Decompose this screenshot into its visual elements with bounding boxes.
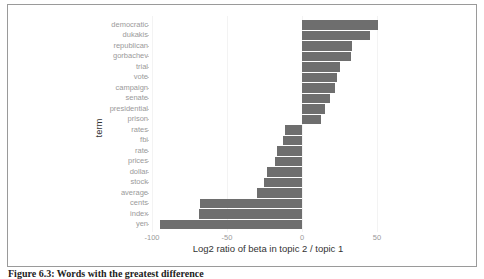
y-tick-label: dukakis: [123, 30, 148, 40]
y-tick-label: vote: [134, 72, 148, 82]
bar-cents: [200, 199, 302, 209]
y-tick-mark: [147, 151, 149, 152]
y-tick-mark: [147, 25, 149, 26]
figure-caption: Figure 6.3: Words with the greatest diff…: [8, 268, 204, 279]
bar-democratic: [302, 20, 378, 30]
bar-prison: [302, 115, 321, 125]
y-tick-mark: [147, 224, 149, 225]
bar-dollar: [267, 167, 302, 177]
x-tick-label: -100: [144, 233, 159, 242]
y-tick-label: average: [121, 188, 148, 198]
bar-rate: [277, 146, 303, 156]
y-tick-mark: [147, 67, 149, 68]
bar-yen: [160, 220, 303, 230]
y-tick-mark: [147, 214, 149, 215]
bar-average: [257, 188, 302, 198]
bar-index: [199, 209, 303, 219]
y-tick-label: cents: [130, 198, 148, 208]
bar-rates: [285, 125, 302, 135]
y-tick-label: index: [130, 209, 148, 219]
y-tick-mark: [147, 172, 149, 173]
y-tick-label: prison: [128, 114, 148, 124]
y-tick-mark: [147, 35, 149, 36]
x-tick-label: 50: [373, 233, 381, 242]
y-tick-mark: [147, 46, 149, 47]
y-tick-mark: [147, 88, 149, 89]
bar-prices: [275, 157, 302, 167]
y-tick-mark: [147, 182, 149, 183]
y-tick-label: prices: [128, 156, 148, 166]
y-tick-label: gorbachev: [113, 51, 148, 61]
gridline: [377, 16, 378, 232]
y-tick-label: presidential: [110, 104, 148, 114]
y-tick-mark: [147, 203, 149, 204]
y-tick-mark: [147, 130, 149, 131]
bar-presidential: [302, 104, 325, 114]
gridline: [152, 16, 153, 232]
y-tick-label: rates: [131, 125, 148, 135]
bar-republican: [302, 41, 352, 51]
y-tick-mark: [147, 119, 149, 120]
y-tick-mark: [147, 161, 149, 162]
y-tick-mark: [147, 109, 149, 110]
y-tick-label: stock: [130, 177, 148, 187]
bar-senate: [302, 94, 330, 104]
y-tick-mark: [147, 193, 149, 194]
x-tick-label: -50: [222, 233, 233, 242]
y-tick-mark: [147, 77, 149, 78]
y-tick-label: democratic: [111, 20, 148, 30]
y-tick-label: campaign: [115, 83, 148, 93]
bar-vote: [302, 73, 337, 83]
bar-campaign: [302, 83, 335, 93]
y-axis-title: term: [93, 119, 104, 138]
y-tick-mark: [147, 56, 149, 57]
bar-fbi: [283, 136, 303, 146]
x-tick-label: 0: [300, 233, 304, 242]
y-tick-label: senate: [125, 93, 148, 103]
bar-dukakis: [302, 31, 370, 41]
x-axis-title: Log2 ratio of beta in topic 2 / topic 1: [193, 243, 344, 254]
bar-gorbachev: [302, 52, 351, 62]
y-tick-mark: [147, 98, 149, 99]
y-tick-label: republican: [113, 41, 148, 51]
y-tick-mark: [147, 140, 149, 141]
bar-trial: [302, 62, 340, 72]
y-tick-label: dollar: [130, 167, 148, 177]
bar-stock: [264, 178, 302, 188]
